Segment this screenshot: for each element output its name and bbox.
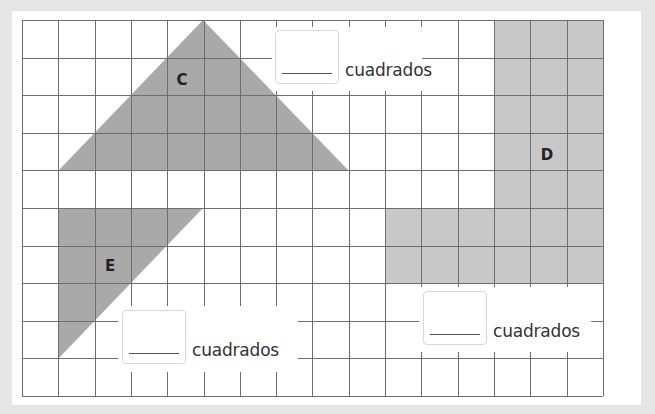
answer-e: cuadrados (122, 310, 279, 364)
answer-c: cuadrados (275, 30, 432, 84)
shape-label-c: C (176, 71, 187, 89)
shape-label-e: E (105, 257, 115, 275)
shape-label-d: D (541, 146, 553, 164)
answer-c-input[interactable] (275, 30, 339, 84)
answer-e-unit: cuadrados (192, 340, 279, 360)
answer-d-unit: cuadrados (493, 321, 580, 341)
answer-line (430, 334, 480, 335)
answer-d: cuadrados (423, 291, 580, 345)
answer-d-input[interactable] (423, 291, 487, 345)
answer-c-unit: cuadrados (345, 60, 432, 80)
answer-line (129, 353, 179, 354)
answer-line (282, 73, 332, 74)
answer-e-input[interactable] (122, 310, 186, 364)
